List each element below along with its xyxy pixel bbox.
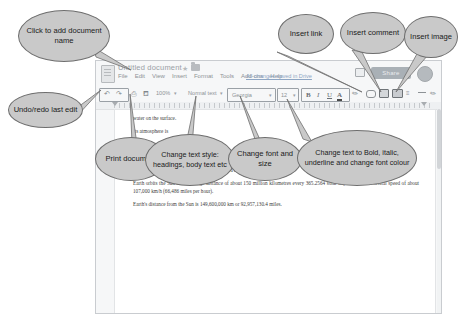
menu-item-format[interactable]: Format (194, 73, 213, 79)
callout-change-text-format-label: Change text to Bold, italic, underline a… (298, 148, 416, 167)
move-to-folder-icon[interactable] (191, 64, 200, 71)
callout-insert-image: Insert image (404, 16, 458, 58)
callout-change-text-format: Change text to Bold, italic, underline a… (297, 130, 417, 186)
printer-icon[interactable]: ⎙ (129, 89, 139, 99)
text-format-group: B I U A (301, 88, 350, 102)
zoom-value[interactable]: 100% (156, 90, 170, 96)
star-icon[interactable]: ★ (182, 65, 188, 73)
insert-comment-icon[interactable] (379, 89, 389, 98)
callout-change-text-style: Change text style: headings, body text e… (145, 134, 235, 186)
formatting-toolbar: ↶ ↷ ⎙ ⛾ 100% ▾ Normal text ▾ Georgia ▾ 1… (96, 87, 441, 101)
callout-insert-link: Insert link (278, 14, 334, 54)
bold-button[interactable]: B (306, 91, 311, 99)
callout-undo-redo: Undo/redo last edit (8, 92, 83, 128)
right-indent-marker[interactable] (421, 102, 427, 106)
undo-arrow-icon[interactable]: ↶ (102, 89, 112, 99)
share-button[interactable]: Share (371, 67, 411, 79)
align-icon[interactable]: ≡ (406, 90, 410, 96)
callout-insert-link-label: Insert link (286, 29, 327, 39)
callout-change-text-style-label: Change text style: headings, body text e… (146, 150, 234, 169)
callout-insert-image-label: Insert image (406, 32, 456, 42)
font-size-value: 12 (281, 92, 287, 98)
paragraph-style-value[interactable]: Normal text (188, 90, 217, 96)
size-chevron-down-icon: ▾ (293, 92, 296, 98)
callout-change-font-label: Change font and size (229, 149, 301, 170)
google-docs-window: Untitled document ★ File Edit View Inser… (95, 60, 442, 314)
document-file-icon (101, 65, 115, 83)
comment-history-icon[interactable] (355, 68, 365, 77)
font-family-select[interactable]: Georgia ▾ (227, 88, 276, 102)
doc-line-7: Earth's distance from the Sun is 149,600… (133, 200, 419, 208)
document-title[interactable]: Untitled document (118, 63, 182, 72)
text-color-button[interactable]: A (337, 91, 342, 101)
menu-item-view[interactable]: View (152, 73, 165, 79)
callout-add-document-name: Click to add document name (18, 10, 110, 62)
save-status-link[interactable]: All changes saved in Drive (246, 73, 312, 79)
callout-add-document-name-label: Click to add document name (19, 26, 109, 47)
pen-icon[interactable]: ✎ (428, 89, 438, 99)
insert-link-icon[interactable] (366, 90, 376, 98)
vertical-scrollbar-thumb[interactable] (437, 109, 441, 169)
screenshot-stage: Untitled document ★ File Edit View Inser… (0, 0, 462, 314)
font-size-select[interactable]: 12 ▾ (277, 88, 299, 102)
ruler-ticks (114, 103, 431, 108)
menu-item-file[interactable]: File (118, 73, 128, 79)
callout-insert-comment: Insert comment (340, 12, 406, 54)
line-spacing-icon[interactable] (418, 92, 426, 93)
italic-button[interactable]: I (317, 91, 319, 99)
paint-format-icon[interactable]: ⛾ (141, 89, 151, 99)
callout-change-font: Change font and size (228, 137, 302, 181)
zoom-chevron-down-icon[interactable]: ▾ (174, 90, 177, 96)
style-chevron-down-icon[interactable]: ▾ (220, 90, 223, 96)
callout-insert-comment-label: Insert comment (343, 28, 403, 38)
menu-item-insert[interactable]: Insert (172, 73, 187, 79)
redo-arrow-icon[interactable]: ↷ (114, 89, 124, 99)
insert-image-icon[interactable] (392, 89, 403, 98)
highlight-pen-icon[interactable]: ✎ (350, 89, 360, 99)
menu-item-tools[interactable]: Tools (220, 73, 234, 79)
font-family-value: Georgia (232, 92, 252, 98)
doc-line-1: water on the surface. (133, 114, 419, 122)
callout-undo-redo-label: Undo/redo last edit (10, 105, 82, 115)
menu-item-edit[interactable]: Edit (135, 73, 145, 79)
avatar[interactable] (417, 66, 433, 82)
font-chevron-down-icon: ▾ (269, 92, 272, 98)
underline-button[interactable]: U (327, 91, 332, 99)
left-indent-marker[interactable] (112, 102, 118, 106)
